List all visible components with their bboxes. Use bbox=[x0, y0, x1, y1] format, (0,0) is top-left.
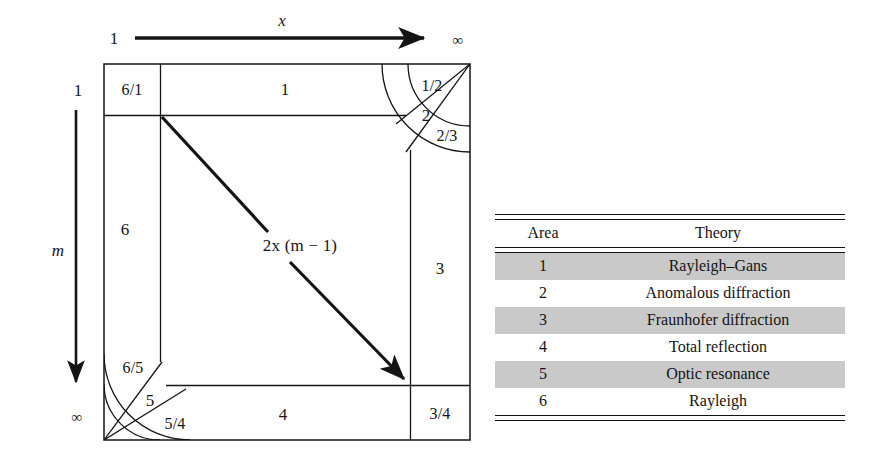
region-3-4-label: 3/4 bbox=[429, 406, 450, 422]
cell-theory: Rayleigh–Gans bbox=[591, 253, 845, 281]
table-row: 5 Optic resonance bbox=[495, 361, 845, 388]
x-axis-variable-label: x bbox=[278, 12, 286, 29]
region-1-2-label: 1/2 bbox=[421, 78, 442, 94]
cell-theory: Rayleigh bbox=[591, 388, 845, 416]
cell-theory: Optic resonance bbox=[591, 361, 845, 388]
cell-area: 3 bbox=[495, 307, 591, 334]
m-axis-end-label: ∞ bbox=[72, 410, 83, 425]
table-row: 3 Fraunhofer diffraction bbox=[495, 307, 845, 334]
table-bottom-rule bbox=[495, 416, 845, 421]
theory-table: Area Theory 1 Rayleigh–Gans 2 Anomalous … bbox=[495, 214, 845, 421]
region-3-label: 3 bbox=[436, 260, 445, 277]
table-row: 1 Rayleigh–Gans bbox=[495, 253, 845, 281]
table-header-row: Area Theory bbox=[495, 220, 845, 248]
x-axis-start-label: 1 bbox=[110, 30, 119, 47]
table-row: 6 Rayleigh bbox=[495, 388, 845, 416]
column-header-area: Area bbox=[495, 220, 591, 248]
cell-area: 1 bbox=[495, 253, 591, 281]
column-header-theory: Theory bbox=[591, 220, 845, 248]
region-1-label: 1 bbox=[281, 81, 290, 98]
m-axis-start-label: 1 bbox=[74, 82, 83, 99]
cell-area: 4 bbox=[495, 334, 591, 361]
region-2-3-label: 2/3 bbox=[436, 128, 457, 144]
region-6-5-label: 6/5 bbox=[122, 360, 143, 376]
region-4-label: 4 bbox=[279, 406, 288, 423]
diagonal-size-parameter-label: 2x (m − 1) bbox=[263, 237, 337, 254]
table-row: 4 Total reflection bbox=[495, 334, 845, 361]
region-5-4-label: 5/4 bbox=[164, 416, 185, 432]
x-axis-end-label: ∞ bbox=[453, 33, 464, 48]
cell-theory: Fraunhofer diffraction bbox=[591, 307, 845, 334]
region-6-1-label: 6/1 bbox=[121, 82, 142, 98]
m-axis-variable-label: m bbox=[52, 242, 64, 259]
cell-theory: Total reflection bbox=[591, 334, 845, 361]
region-5-label: 5 bbox=[146, 392, 155, 409]
table-row: 2 Anomalous diffraction bbox=[495, 280, 845, 307]
region-2-label: 2 bbox=[422, 107, 431, 124]
cell-theory: Anomalous diffraction bbox=[591, 280, 845, 307]
cell-area: 6 bbox=[495, 388, 591, 416]
cell-area: 2 bbox=[495, 280, 591, 307]
region-6-label: 6 bbox=[121, 221, 130, 238]
cell-area: 5 bbox=[495, 361, 591, 388]
scattering-regime-figure: x 1 ∞ m 1 ∞ 6/1 1 1/2 2 2/3 6 3 6/5 5 5/… bbox=[0, 0, 878, 462]
